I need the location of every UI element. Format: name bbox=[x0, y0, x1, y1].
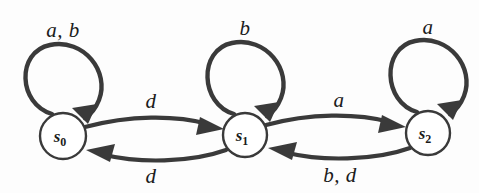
transition-s2-to-s1-arrowhead bbox=[268, 142, 297, 160]
transition-s0-to-s1-arrowhead bbox=[196, 117, 224, 135]
self-loop-s1-label: b bbox=[240, 16, 251, 41]
self-loop-s1 bbox=[207, 42, 283, 122]
transition-s1-to-s2-arrowhead bbox=[378, 115, 406, 133]
transition-s1-to-s0-label: d bbox=[146, 164, 157, 189]
transition-s0-to-s1 bbox=[85, 117, 224, 135]
transition-s1-to-s2-label: a bbox=[334, 88, 345, 113]
transition-s1-to-s2-path bbox=[266, 116, 390, 125]
state-node-s2[interactable]: s2 bbox=[406, 111, 450, 155]
state-node-s0[interactable]: s0 bbox=[40, 113, 86, 159]
transition-s2-to-s1-path bbox=[288, 148, 410, 158]
state-node-s0-subscript: 0 bbox=[60, 135, 66, 149]
transition-s0-to-s1-path bbox=[85, 118, 208, 127]
self-loop-s0-label: a, b bbox=[46, 18, 80, 43]
transition-s1-to-s0 bbox=[86, 144, 226, 162]
state-node-s1-subscript: 1 bbox=[242, 134, 248, 148]
self-loop-s2 bbox=[390, 40, 466, 120]
transition-s1-to-s2 bbox=[266, 115, 406, 133]
transition-s2-to-s1 bbox=[268, 142, 410, 160]
transition-s2-to-s1-label: b, d bbox=[323, 163, 357, 188]
transition-s1-to-s0-path bbox=[105, 150, 226, 160]
state-node-s2-subscript: 2 bbox=[425, 132, 431, 146]
state-diagram: s0 s1 s2 a, b b a d d a b, d bbox=[0, 0, 479, 193]
state-node-s1[interactable]: s1 bbox=[223, 113, 267, 157]
transition-s0-to-s1-label: d bbox=[146, 89, 157, 114]
self-loop-s2-label: a bbox=[423, 15, 434, 40]
transition-s1-to-s0-arrowhead bbox=[86, 144, 115, 162]
